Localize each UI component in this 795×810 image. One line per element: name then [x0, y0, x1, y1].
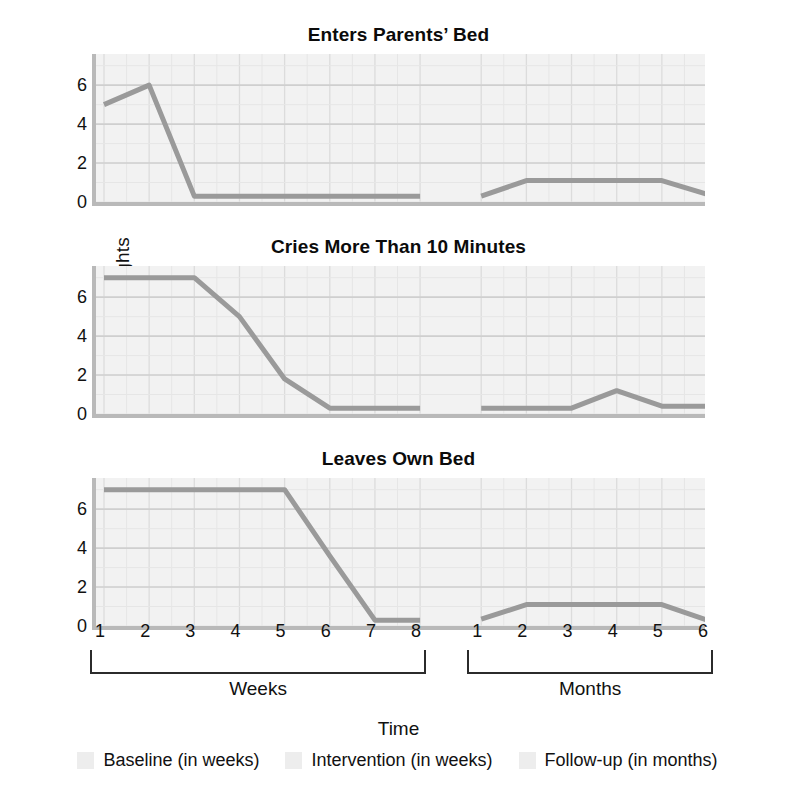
legend-swatch-icon: [519, 752, 536, 769]
plot-area: 0246: [92, 54, 705, 206]
x-tick-label: 3: [563, 622, 573, 640]
y-tick-label: 2: [77, 154, 87, 172]
data-series-line: [96, 478, 705, 626]
y-tick-label: 4: [77, 539, 87, 557]
y-tick-label: 2: [77, 366, 87, 384]
legend-label: Baseline (in weeks): [103, 750, 259, 771]
data-series-line: [96, 54, 705, 202]
x-tick-label: 1: [95, 622, 105, 640]
x-tick-label: 3: [185, 622, 195, 640]
x-tick-label: 4: [608, 622, 618, 640]
panel-title: Cries More Than 10 Minutes: [92, 236, 705, 258]
y-tick-label: 0: [77, 193, 87, 211]
chart-legend: Baseline (in weeks)Intervention (in week…: [0, 750, 795, 771]
y-tick-label: 0: [77, 617, 87, 635]
x-axis-title: Time: [92, 718, 705, 740]
y-tick-label: 4: [77, 115, 87, 133]
y-tick-label: 6: [77, 500, 87, 518]
legend-item: Baseline (in weeks): [77, 750, 259, 771]
x-tick-label: 2: [140, 622, 150, 640]
x-tick-label: 6: [321, 622, 331, 640]
plot-inner: [96, 54, 705, 202]
phase-bracket: [467, 650, 713, 674]
legend-item: Follow-up (in months): [519, 750, 718, 771]
plot-area: 0246: [92, 266, 705, 418]
x-tick-label: 6: [698, 622, 708, 640]
x-tick-label: 5: [276, 622, 286, 640]
x-tick-label: 4: [230, 622, 240, 640]
legend-label: Follow-up (in months): [545, 750, 718, 771]
x-tick-label: 2: [517, 622, 527, 640]
legend-item: Intervention (in weeks): [285, 750, 492, 771]
phase-bracket-label: Weeks: [229, 678, 287, 700]
y-tick-label: 2: [77, 578, 87, 596]
multi-panel-line-chart: Number of nights Enters Parents’ Bed0246…: [0, 0, 795, 810]
phase-bracket: [90, 650, 426, 674]
panel-title: Enters Parents’ Bed: [92, 24, 705, 46]
x-tick-label: 8: [411, 622, 421, 640]
data-series-line: [96, 266, 705, 414]
x-tick-label: 7: [366, 622, 376, 640]
x-tick-label: 5: [653, 622, 663, 640]
y-tick-label: 6: [77, 76, 87, 94]
x-axis-ticks: 12345678123456: [92, 622, 705, 648]
y-tick-label: 6: [77, 288, 87, 306]
legend-swatch-icon: [77, 752, 94, 769]
phase-brackets: WeeksMonths: [92, 650, 705, 680]
plot-inner: [96, 266, 705, 414]
y-tick-label: 0: [77, 405, 87, 423]
phase-bracket-label: Months: [559, 678, 621, 700]
plot-area: 0246: [92, 478, 705, 630]
legend-label: Intervention (in weeks): [311, 750, 492, 771]
plot-inner: [96, 478, 705, 626]
panel-title: Leaves Own Bed: [92, 448, 705, 470]
y-tick-label: 4: [77, 327, 87, 345]
legend-swatch-icon: [285, 752, 302, 769]
x-tick-label: 1: [472, 622, 482, 640]
